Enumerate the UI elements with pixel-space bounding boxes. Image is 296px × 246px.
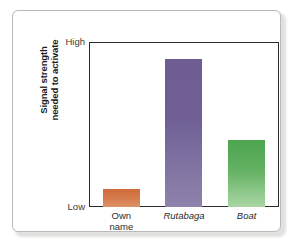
bar-own-name [103,189,140,207]
bar-group [90,43,278,207]
bar-slot-own-name [90,43,153,207]
bar-slot-rutabaga [153,43,216,207]
bar-boat [228,140,265,207]
x-label-own-name: Own name [90,210,153,232]
y-tick-high: High [43,37,85,47]
figure-root: Signal strength needed to activate High … [0,0,296,246]
bar-slot-boat [215,43,278,207]
y-tick-low: Low [43,202,85,212]
x-label-own-name-line2: name [90,221,153,232]
x-label-rutabaga: Rutabaga [153,210,216,232]
y-axis-ticks: High Low [37,11,85,233]
bar-rutabaga [165,59,202,207]
x-label-boat: Boat [215,210,278,232]
x-axis-labels: Own name Rutabaga Boat [90,210,278,232]
x-label-own-name-line1: Own [112,210,132,221]
figure-card: Signal strength needed to activate High … [12,10,281,232]
